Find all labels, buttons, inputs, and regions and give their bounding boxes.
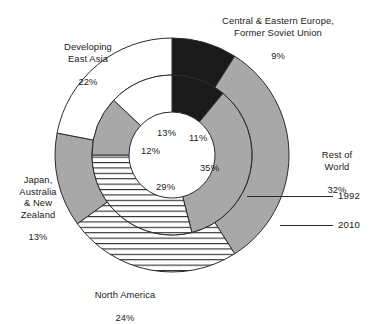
slice-label-japan-anz: Japan, Australia & New Zealand 13% bbox=[2, 163, 74, 243]
slice-label-rest-of-world-name: Rest of World bbox=[322, 149, 352, 171]
callout-year-1992: 1992 bbox=[338, 190, 360, 201]
slice-label-north-america-value: 24% bbox=[115, 312, 134, 323]
slice-label-ceefsu-name: Central & Eastern Europe, Former Soviet … bbox=[222, 15, 334, 37]
slice-label-ceefsu: Central & Eastern Europe, Former Soviet … bbox=[196, 4, 360, 61]
inner-value-ceefsu: 11% bbox=[189, 132, 207, 143]
slice-label-north-america-name: North America bbox=[95, 289, 156, 300]
slice-label-rest-of-world: Rest of World 32% bbox=[306, 138, 368, 195]
slice-label-japan-anz-value: 13% bbox=[28, 231, 47, 242]
inner-value-developing-east-asia: 13% bbox=[157, 127, 176, 138]
slice-label-developing-east-asia-name: Developing East Asia bbox=[64, 41, 112, 63]
slice-label-north-america: North America 24% bbox=[73, 278, 177, 324]
callout-year-2010: 2010 bbox=[338, 219, 360, 230]
inner-value-rest-of-world: 35% bbox=[200, 162, 219, 173]
slice-label-developing-east-asia: Developing East Asia 22% bbox=[40, 30, 136, 87]
slice-label-developing-east-asia-value: 22% bbox=[78, 76, 97, 87]
inner-ring-1992 bbox=[92, 75, 252, 235]
slice-label-ceefsu-value: 9% bbox=[271, 50, 285, 61]
inner-value-japan-anz: 12% bbox=[141, 145, 160, 156]
slice-label-japan-anz-name: Japan, Australia & New Zealand bbox=[19, 174, 56, 219]
inner-value-north-america: 29% bbox=[156, 181, 175, 192]
